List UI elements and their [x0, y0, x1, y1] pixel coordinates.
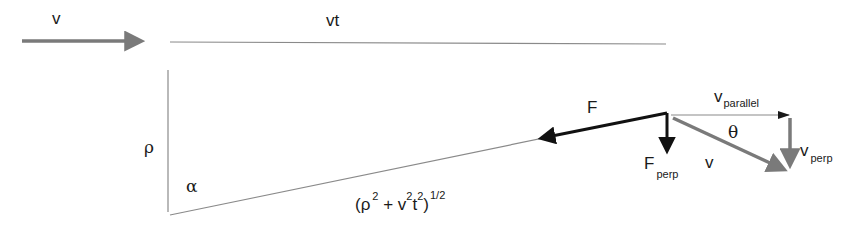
force-perp-main: F [644, 154, 654, 173]
v-perp-sub: perp [811, 152, 833, 164]
alpha-label: α [186, 176, 198, 196]
force-perp-sub: perp [656, 168, 678, 180]
vt-label: vt [326, 11, 340, 30]
formula-plus: + v [378, 195, 406, 214]
formula-exp-half: 1/2 [430, 189, 445, 201]
force-arrow [542, 113, 667, 138]
v-perp-main: v [800, 141, 809, 160]
force-label: F [587, 98, 597, 117]
distance-formula: (ρ2 + v2t2)1/2 [355, 189, 445, 214]
rho-label: ρ [144, 137, 154, 157]
vt-line [170, 42, 666, 44]
v-parallel-sub: parallel [724, 97, 759, 109]
force-velocity-diagram: v vt ρ α (ρ2 + v2t2)1/2 F Fperp vparalle… [0, 0, 865, 233]
v-perp-label: vperp [800, 141, 833, 164]
v-diagonal-label: v [705, 153, 714, 172]
v-parallel-main: v [714, 87, 723, 106]
force-perp-label: Fperp [644, 154, 678, 180]
theta-label: θ [728, 122, 738, 142]
formula-close: ) [423, 195, 429, 214]
velocity-label: v [52, 9, 61, 28]
formula-open: (ρ [355, 195, 370, 214]
v-parallel-label: vparallel [714, 87, 759, 109]
